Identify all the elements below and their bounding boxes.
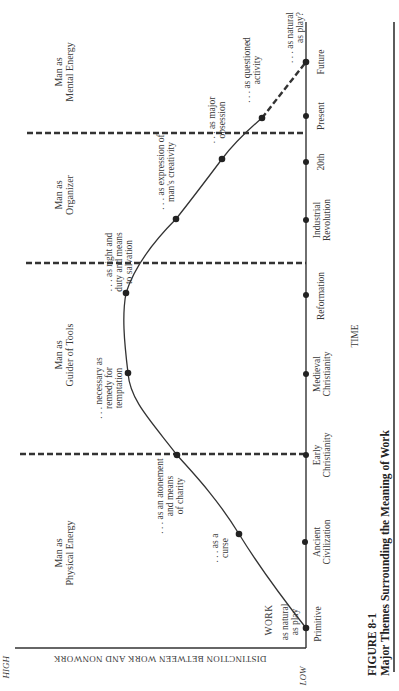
- era-label-mental-2: Mental Energy: [64, 42, 75, 102]
- annotation-obsession-2: obsession: [217, 101, 227, 138]
- annotation-remedy-3: temptation: [114, 367, 124, 408]
- annotation-obsession-1: . . . as major: [207, 96, 217, 144]
- figure-title: Major Themes Surrounding the Meaning of …: [379, 430, 392, 676]
- annotation-creativity-1: . . . as expression of: [156, 133, 166, 209]
- x-axis-title-time: TIME: [350, 324, 360, 347]
- annotation-curse-1: . . . as a: [210, 533, 220, 563]
- figure-8-1-chart: Primitive Ancient Civilization Early Chr…: [0, 0, 399, 691]
- era-label-organizer-2: Organizer: [64, 174, 75, 214]
- time-label-future: Future: [316, 50, 326, 75]
- point-questioned: [259, 115, 266, 122]
- annotation-natural-play-2: as play: [290, 608, 300, 635]
- annotation-atonement-1: . . . as an atonement: [155, 458, 165, 534]
- time-label-present: Present: [316, 102, 326, 130]
- time-label-early-2: Christianity: [322, 432, 332, 477]
- time-label-industrial-1: Industrial: [312, 201, 322, 238]
- time-label-medieval-2: Christianity: [322, 351, 332, 396]
- annotation-remedy-1: . . . necessary as: [94, 357, 104, 419]
- time-label-primitive: Primitive: [313, 606, 323, 641]
- annotation-questioned-2: activity: [252, 56, 262, 85]
- annotation-creativity-2: man's creativity: [166, 142, 176, 202]
- curve-label-work: WORK: [264, 604, 274, 635]
- annotation-questioned-1: . . . as questioned: [242, 37, 252, 103]
- figure-number: FIGURE 8-1: [366, 613, 378, 676]
- annotation-natural-play-1: as natural: [280, 603, 290, 640]
- y-axis-high: HIGH: [1, 656, 11, 680]
- era-label-mental-1: Man as: [53, 57, 64, 86]
- point-remedy: [125, 370, 132, 377]
- y-axis-title: DISTINCTION BETWEEN WORK AND NONWORK: [53, 654, 266, 664]
- annotation-atonement-2: and means: [165, 476, 175, 517]
- annotation-future-play-1: . . . as natural: [285, 12, 295, 63]
- time-label-medieval-1: Medieval: [312, 356, 322, 392]
- point-curse: [236, 531, 243, 538]
- time-label-reformation: Reformation: [316, 272, 326, 320]
- point-creativity: [173, 216, 180, 223]
- time-label-industrial-2: Revolution: [322, 199, 332, 241]
- point-future: [303, 59, 310, 66]
- time-label-20th: 20th: [316, 153, 326, 170]
- annotation-atonement-3: of charity: [175, 477, 185, 514]
- annotation-salvation-1: . . . as right and: [104, 232, 114, 291]
- point-primitive: [303, 625, 310, 632]
- time-label-early-1: Early: [312, 444, 322, 465]
- time-label-ancient-1: Ancient: [312, 527, 322, 557]
- point-atonement: [174, 452, 181, 459]
- era-label-physical-1: Man as: [53, 538, 64, 567]
- era-label-physical-2: Physical Energy: [64, 520, 75, 585]
- annotation-remedy-2: remedy for: [104, 366, 114, 409]
- annotation-salvation-2: duty and means: [114, 232, 124, 292]
- era-label-organizer-1: Man as: [53, 180, 64, 209]
- time-label-ancient-2: Civilization: [322, 519, 332, 564]
- era-label-tools-2: Guider of Tools: [64, 323, 75, 386]
- annotation-curse-2: curse: [220, 538, 230, 558]
- era-label-tools-1: Man as: [53, 340, 64, 369]
- point-obsession: [219, 156, 226, 163]
- annotation-future-play-2: as play?: [295, 12, 305, 43]
- annotation-salvation-3: to salvation: [124, 240, 134, 284]
- work-curve-future-dashed: [262, 62, 306, 118]
- y-axis-low: LOW: [298, 665, 308, 687]
